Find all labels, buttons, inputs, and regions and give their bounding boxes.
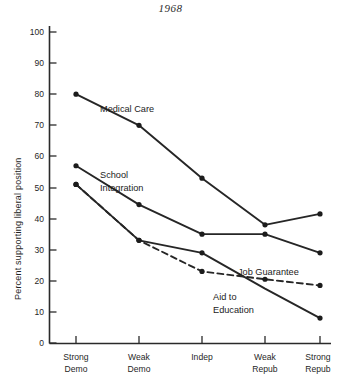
x-label-strong-demo-line2: Demo bbox=[65, 364, 88, 374]
data-point bbox=[199, 250, 204, 255]
x-label-strong-repub-line2: Repub bbox=[305, 364, 331, 374]
x-label-weak-demo-line1: Weak bbox=[128, 352, 151, 362]
series-aid-to-education bbox=[73, 182, 322, 321]
chart-title: 1968 bbox=[0, 2, 341, 14]
y-tick-label-0: 0 bbox=[39, 338, 44, 348]
data-point bbox=[73, 182, 78, 187]
x-label-strong-repub-line1: Strong bbox=[305, 352, 331, 362]
annotation-medical-care: Medical Care bbox=[100, 104, 154, 114]
data-point bbox=[73, 92, 78, 97]
data-point bbox=[199, 232, 204, 237]
annotation-aid-to-education-line2: Education bbox=[213, 305, 254, 315]
x-axis-ticks bbox=[76, 336, 320, 344]
data-point bbox=[136, 123, 141, 128]
y-tick-label-100: 100 bbox=[30, 27, 44, 37]
data-point bbox=[317, 283, 322, 288]
y-tick-label-70: 70 bbox=[35, 120, 45, 130]
y-axis-ticks bbox=[50, 32, 57, 343]
y-tick-label-50: 50 bbox=[35, 183, 45, 193]
data-point bbox=[199, 269, 204, 274]
x-axis-category-labels: Strong Demo Weak Demo Indep Weak Repub S… bbox=[63, 352, 331, 374]
data-point bbox=[317, 250, 322, 255]
data-series-layer bbox=[73, 92, 322, 321]
x-label-weak-repub-line2: Repub bbox=[252, 364, 278, 374]
y-tick-label-90: 90 bbox=[35, 58, 45, 68]
y-tick-label-80: 80 bbox=[35, 89, 45, 99]
x-label-indep: Indep bbox=[191, 352, 213, 362]
data-point bbox=[262, 277, 267, 282]
y-axis-tick-labels: 100 90 80 70 60 50 40 30 20 10 0 bbox=[30, 27, 44, 348]
chart-canvas: 100 90 80 70 60 50 40 30 20 10 0 Percent… bbox=[0, 0, 341, 390]
annotation-job-guarantee: Job Guarantee bbox=[238, 267, 299, 277]
y-axis-title: Percent supporting liberal position bbox=[13, 157, 23, 300]
y-tick-label-20: 20 bbox=[35, 276, 45, 286]
data-point bbox=[136, 238, 141, 243]
x-label-strong-demo-line1: Strong bbox=[63, 352, 89, 362]
annotation-school-integration-line1: School bbox=[100, 170, 128, 180]
y-tick-label-60: 60 bbox=[35, 151, 45, 161]
series-line bbox=[76, 184, 320, 318]
y-tick-label-30: 30 bbox=[35, 245, 45, 255]
y-tick-label-10: 10 bbox=[35, 307, 45, 317]
x-label-weak-repub-line1: Weak bbox=[254, 352, 277, 362]
chart-figure: 1968 100 90 80 70 60 50 40 bbox=[0, 0, 341, 390]
data-point bbox=[317, 316, 322, 321]
x-label-weak-demo-line2: Demo bbox=[128, 364, 151, 374]
data-point bbox=[317, 211, 322, 216]
annotation-aid-to-education-line1: Aid to bbox=[213, 292, 237, 302]
data-point bbox=[136, 202, 141, 207]
y-tick-label-40: 40 bbox=[35, 214, 45, 224]
data-point bbox=[199, 176, 204, 181]
data-point bbox=[73, 163, 78, 168]
annotation-school-integration-line2: Integration bbox=[100, 183, 143, 193]
data-point bbox=[262, 232, 267, 237]
data-point bbox=[262, 222, 267, 227]
